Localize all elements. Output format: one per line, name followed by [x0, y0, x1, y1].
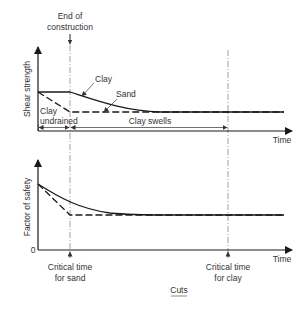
critical-time-sand-line1: Critical time — [48, 262, 93, 272]
shear-strength-chart: Shear strength Time Clay Sand Clay undra… — [22, 47, 292, 145]
sand-curve-label: Sand — [116, 89, 136, 99]
clay-swells-label: Clay swells — [129, 116, 172, 126]
clay-undrained-label-line1: Clay — [40, 106, 58, 116]
clay-undrained-label-line2: undrained — [40, 116, 78, 126]
caption: Cuts — [170, 285, 187, 295]
bottom-y-axis-label: Factor of safety — [22, 177, 32, 236]
sand-curve — [38, 92, 284, 112]
end-of-construction-label-line2: construction — [47, 22, 93, 32]
fos-sand-curve — [38, 184, 284, 215]
critical-time-clay-line1: Critical time — [206, 262, 251, 272]
clay-curve-label: Clay — [95, 74, 113, 84]
fos-clay-curve — [38, 184, 284, 215]
critical-time-sand-line2: for sand — [55, 273, 86, 283]
end-of-construction-label-line1: End of — [58, 11, 83, 21]
factor-of-safety-chart: Factor of safety 0 Time Critical time fo… — [22, 160, 292, 283]
cuts-diagram: End of construction Shear strength Time … — [0, 0, 306, 311]
clay-curve — [38, 92, 284, 112]
origin-label: 0 — [31, 245, 36, 255]
top-x-axis-label: Time — [273, 135, 292, 145]
bottom-x-axis-label: Time — [273, 254, 292, 264]
clay-leader-arrow-icon — [82, 83, 94, 96]
critical-time-clay-line2: for clay — [214, 273, 242, 283]
top-y-axis-label: Shear strength — [22, 61, 32, 117]
